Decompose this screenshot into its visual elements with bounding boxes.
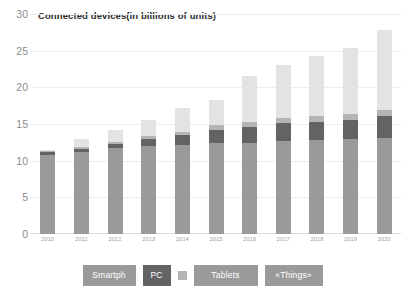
bar-segment-things <box>108 130 123 142</box>
y-axis: 30 25 20 15 10 5 0 <box>0 14 28 234</box>
bar-segment-smartph <box>40 155 55 234</box>
y-tick-30: 30 <box>2 8 28 20</box>
bar-segment-things <box>141 120 156 136</box>
bar-column-2017[interactable] <box>266 14 300 234</box>
bar-segment-pc <box>276 123 291 141</box>
y-tick-5: 5 <box>2 191 28 203</box>
bar-segment-smartph <box>209 143 224 234</box>
bar-column-2016[interactable] <box>233 14 267 234</box>
bar-column-2020[interactable] <box>367 14 401 234</box>
bar-segment-smartph <box>74 152 89 234</box>
chart-legend: Smartph PC Tablets «Things» <box>0 262 405 288</box>
bar-segment-things <box>276 65 291 118</box>
legend-label-tablets: Tablets <box>194 265 258 286</box>
bar-column-2018[interactable] <box>300 14 334 234</box>
bar-segment-smartph <box>175 145 190 234</box>
bar-segment-smartph <box>141 146 156 234</box>
bar-segment-pc <box>175 135 190 144</box>
stacked-bar[interactable] <box>209 100 224 234</box>
legend-item-tablets[interactable]: Tablets <box>194 265 258 286</box>
bar-segment-things <box>343 48 358 114</box>
x-tick-2010: 2010 <box>31 236 65 248</box>
bar-segment-smartph <box>343 139 358 234</box>
x-tick-2017: 2017 <box>266 236 300 248</box>
bar-column-2013[interactable] <box>132 14 166 234</box>
x-tick-2020: 2020 <box>367 236 401 248</box>
y-tick-25: 25 <box>2 45 28 57</box>
stacked-bar[interactable] <box>343 48 358 234</box>
bar-column-2014[interactable] <box>166 14 200 234</box>
bar-column-2011[interactable] <box>65 14 99 234</box>
legend-label-smartph: Smartph <box>83 265 136 286</box>
stacked-bar[interactable] <box>276 65 291 234</box>
legend-item-pc[interactable]: PC <box>143 265 171 286</box>
legend-label-pc: PC <box>143 265 171 286</box>
bar-segment-pc <box>343 120 358 139</box>
bar-segment-pc <box>141 139 156 146</box>
bar-group <box>31 14 401 234</box>
x-tick-2016: 2016 <box>233 236 267 248</box>
bar-segment-pc <box>309 122 324 140</box>
bar-column-2010[interactable] <box>31 14 65 234</box>
stacked-bar[interactable] <box>175 108 190 234</box>
bar-column-2012[interactable] <box>98 14 132 234</box>
bar-segment-things <box>74 139 89 147</box>
x-tick-2011: 2011 <box>65 236 99 248</box>
bar-segment-smartph <box>108 148 123 234</box>
bar-column-2019[interactable] <box>334 14 368 234</box>
stacked-bar[interactable] <box>74 139 89 234</box>
y-tick-10: 10 <box>2 155 28 167</box>
legend-swatch-icon <box>178 271 187 280</box>
bar-segment-things <box>309 56 324 116</box>
bar-segment-pc <box>209 130 224 144</box>
plot-area <box>31 14 401 234</box>
bar-segment-smartph <box>377 138 392 234</box>
bar-segment-pc <box>242 127 257 143</box>
legend-item-things[interactable]: «Things» <box>265 265 323 286</box>
stacked-bar[interactable] <box>309 56 324 234</box>
bar-segment-things <box>209 100 224 126</box>
bar-segment-smartph <box>242 143 257 234</box>
y-tick-0: 0 <box>2 228 28 240</box>
bar-segment-pc <box>377 116 392 138</box>
x-tick-2019: 2019 <box>334 236 368 248</box>
y-tick-20: 20 <box>2 81 28 93</box>
bar-segment-smartph <box>309 140 324 234</box>
bar-column-2015[interactable] <box>199 14 233 234</box>
x-tick-2013: 2013 <box>132 236 166 248</box>
connected-devices-chart: Connected devices(in billions of units) … <box>0 0 405 302</box>
x-tick-2015: 2015 <box>199 236 233 248</box>
x-tick-2012: 2012 <box>98 236 132 248</box>
stacked-bar[interactable] <box>141 120 156 234</box>
x-tick-2018: 2018 <box>300 236 334 248</box>
bar-segment-things <box>175 108 190 132</box>
legend-item-smartph[interactable]: Smartph <box>83 265 136 286</box>
legend-item-swatch[interactable] <box>178 271 187 280</box>
stacked-bar[interactable] <box>40 150 55 234</box>
x-axis: 2010201120122013201420152016201720182019… <box>31 236 401 248</box>
stacked-bar[interactable] <box>377 30 392 234</box>
bar-segment-things <box>377 30 392 110</box>
bar-segment-things <box>242 76 257 122</box>
legend-label-things: «Things» <box>265 265 323 286</box>
stacked-bar[interactable] <box>108 130 123 234</box>
stacked-bar[interactable] <box>242 76 257 234</box>
bar-segment-smartph <box>276 141 291 234</box>
x-tick-2014: 2014 <box>166 236 200 248</box>
y-tick-15: 15 <box>2 118 28 130</box>
